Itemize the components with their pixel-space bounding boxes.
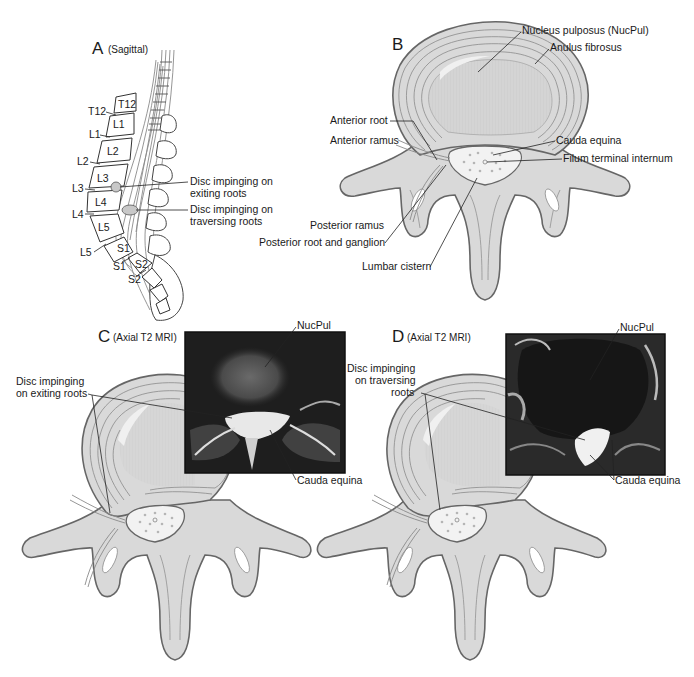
label-anulus-fibrosus: Anulus fibrosus <box>550 41 622 53</box>
label-disc-traversing-line2: on traversing <box>355 374 416 386</box>
vertebra-label-t12: T12 <box>118 98 136 110</box>
label-posterior-ramus: Posterior ramus <box>310 219 384 231</box>
label-anterior-root: Anterior root <box>330 114 388 126</box>
spine-anatomy-figure: A (Sagittal) <box>0 0 694 677</box>
panel-d-subtitle: (Axial T2 MRI) <box>407 332 471 343</box>
root-label-l2: L2 <box>77 155 89 167</box>
root-label-s1: S1 <box>113 260 126 272</box>
root-label-l5: L5 <box>80 246 92 258</box>
vertebra-label-l4: L4 <box>95 196 107 208</box>
annotation-traversing-line1: Disc impinging on <box>190 203 273 215</box>
label-lumbar-cistern: Lumbar cistern <box>362 260 432 272</box>
label-nucpul-c: NucPul <box>297 319 331 331</box>
annotation-exiting-line1: Disc impinging on <box>190 175 273 187</box>
panel-d: D (Axial T2 MRI) <box>317 321 680 660</box>
root-label-l3: L3 <box>72 182 84 194</box>
root-label-l4: L4 <box>72 208 84 220</box>
panel-a-subtitle: (Sagittal) <box>108 44 148 55</box>
label-cauda-equina-c: Cauda equina <box>297 474 363 486</box>
vertebra-label-l1: L1 <box>113 118 125 130</box>
label-filum-terminale: Filum terminal internum <box>563 152 673 164</box>
label-disc-traversing-line3: roots <box>391 386 414 398</box>
traversing-root-impingement-marker <box>122 205 138 215</box>
label-disc-exiting-line1: Disc impinging <box>16 375 84 387</box>
panel-d-letter: D <box>392 327 404 346</box>
vertebra-label-l2: L2 <box>107 145 119 157</box>
annotation-exiting-line2: exiting roots <box>190 187 247 199</box>
panel-b: B <box>259 22 673 300</box>
vertebra-label-l3: L3 <box>97 172 109 184</box>
vertebra-label-s2: S2 <box>135 258 148 270</box>
label-cauda-equina: Cauda equina <box>556 134 622 146</box>
panel-b-letter: B <box>392 35 403 54</box>
label-disc-traversing-line1: Disc impinging <box>347 362 415 374</box>
panel-c: C (Axial T2 MRI) <box>16 319 363 660</box>
panel-c-letter: C <box>98 327 110 346</box>
root-label-l1: L1 <box>89 128 101 140</box>
panel-a-letter: A <box>92 39 104 58</box>
label-disc-exiting-line2: on exiting roots <box>16 387 87 399</box>
annotation-traversing-line2: traversing roots <box>190 215 262 227</box>
panel-c-subtitle: (Axial T2 MRI) <box>113 332 177 343</box>
label-cauda-equina-d: Cauda equina <box>615 474 681 486</box>
vertebra-label-s1: S1 <box>117 242 130 254</box>
label-posterior-root-ganglion: Posterior root and ganglion <box>259 236 385 248</box>
mri-inset-d <box>506 334 665 475</box>
vertebra-label-l5: L5 <box>98 221 110 233</box>
exiting-root-impingement-marker <box>111 182 121 192</box>
label-nucpul-d: NucPul <box>620 321 654 333</box>
mri-inset-c <box>185 332 345 473</box>
label-anterior-ramus: Anterior ramus <box>330 134 399 146</box>
root-label-t12: T12 <box>88 105 106 117</box>
label-nucleus-pulposus: Nucleus pulposus (NucPul) <box>522 24 649 36</box>
panel-a: A (Sagittal) <box>72 39 273 320</box>
